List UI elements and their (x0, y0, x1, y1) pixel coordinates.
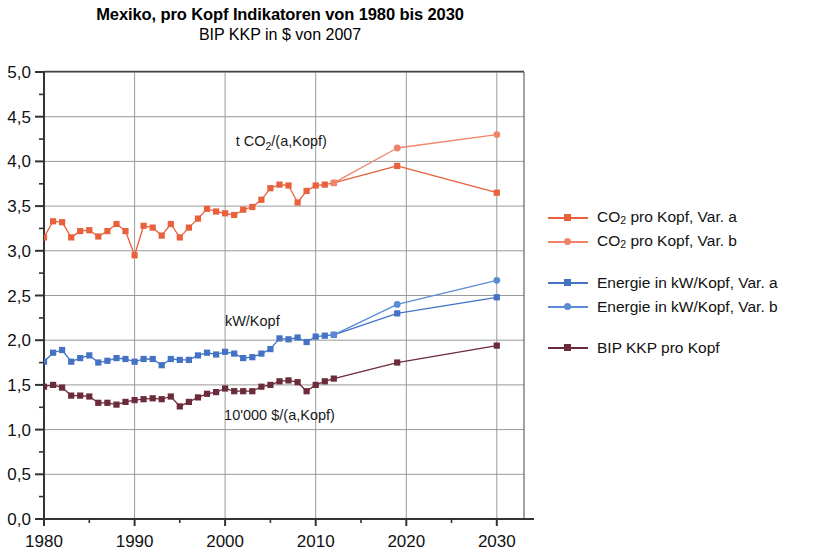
y-axis-tick-label: 4,5 (7, 108, 31, 127)
x-axis-tick-label: 2020 (387, 532, 425, 551)
data-point (122, 356, 128, 362)
data-point (494, 294, 500, 300)
x-axis-tick-label: 2010 (297, 532, 335, 551)
legend-swatch-icon (548, 276, 588, 290)
data-point (122, 228, 128, 234)
legend-marker-square (564, 279, 571, 286)
data-point (204, 391, 210, 397)
legend-item-label: Energie in kW/Kopf, Var. b (597, 298, 778, 316)
y-axis-tick-label: 4,0 (7, 152, 31, 171)
data-point (168, 221, 174, 227)
data-point (267, 185, 273, 191)
data-point (313, 182, 319, 188)
data-point (95, 400, 101, 406)
data-point (104, 358, 110, 364)
data-point (86, 352, 92, 358)
data-point (330, 180, 337, 187)
data-point (195, 394, 201, 400)
data-point (213, 389, 219, 395)
data-point (285, 336, 291, 342)
data-point (77, 228, 83, 234)
data-point (231, 351, 237, 357)
data-point (159, 396, 165, 402)
legend-marker-round (564, 303, 571, 310)
data-point (177, 403, 183, 409)
chart-legend: CO2 pro Kopf, Var. aCO2 pro Kopf, Var. b… (548, 206, 826, 360)
legend-marker-round (564, 238, 571, 245)
data-point (104, 400, 110, 406)
chart-figure: Mexiko, pro Kopf Indikatoren von 1980 bi… (0, 0, 826, 558)
data-point (249, 204, 255, 210)
legend-item[interactable]: CO2 pro Kopf, Var. b (548, 230, 826, 254)
data-point (113, 221, 119, 227)
data-point (231, 212, 237, 218)
y-axis-tick-label: 2,0 (7, 331, 31, 350)
data-point (494, 343, 500, 349)
data-point (240, 388, 246, 394)
data-point (177, 357, 183, 363)
data-point (122, 399, 128, 405)
data-point (68, 359, 74, 365)
data-point (68, 234, 74, 240)
data-point (186, 225, 192, 231)
legend-swatch-icon (548, 341, 588, 355)
data-point (177, 234, 183, 240)
data-point (304, 339, 310, 345)
x-axis-tick-label: 1980 (25, 532, 63, 551)
data-point (267, 382, 273, 388)
legend-item[interactable]: Energie in kW/Kopf, Var. b (548, 295, 826, 319)
data-point (41, 234, 47, 240)
data-point (330, 331, 337, 338)
data-point (68, 393, 74, 399)
legend-item[interactable]: CO2 pro Kopf, Var. a (548, 206, 826, 230)
x-axis-tick-label: 2030 (478, 532, 516, 551)
legend-spacer (548, 319, 826, 336)
data-point (304, 388, 310, 394)
data-point (267, 346, 273, 352)
data-point (258, 351, 264, 357)
data-point (493, 131, 500, 138)
data-point (204, 206, 210, 212)
data-point (222, 210, 228, 216)
data-point (493, 277, 500, 284)
data-point (231, 388, 237, 394)
legend-item[interactable]: Energie in kW/Kopf, Var. a (548, 271, 826, 295)
data-point (159, 233, 165, 239)
data-point (132, 252, 138, 258)
data-point (322, 378, 328, 384)
data-point (132, 359, 138, 365)
y-axis-tick-label: 2,5 (7, 287, 31, 306)
data-point (50, 218, 56, 224)
data-point (394, 163, 400, 169)
data-point (86, 227, 92, 233)
y-axis-tick-label: 1,0 (7, 421, 31, 440)
legend-spacer (548, 254, 826, 271)
data-point (95, 233, 101, 239)
data-point (322, 182, 328, 188)
data-point (195, 352, 201, 358)
y-axis-tick-label: 3,5 (7, 197, 31, 216)
data-point (240, 207, 246, 213)
data-point (50, 350, 56, 356)
x-axis-tick-label: 2000 (206, 532, 244, 551)
data-point (77, 355, 83, 361)
data-point (150, 225, 156, 231)
legend-item[interactable]: BIP KKP pro Kopf (548, 336, 826, 360)
data-point (394, 310, 400, 316)
data-point (168, 393, 174, 399)
energy-annotation: kW/Kopf (225, 313, 281, 329)
data-point (213, 351, 219, 357)
data-point (313, 334, 319, 340)
data-point (113, 355, 119, 361)
data-point (285, 377, 291, 383)
x-axis-tick-label: 1990 (116, 532, 154, 551)
data-point (86, 393, 92, 399)
legend-marker-square (564, 214, 571, 221)
data-point (285, 182, 291, 188)
chart-svg: 0,00,51,01,52,02,53,03,54,04,55,01980199… (0, 0, 560, 558)
data-point (141, 223, 147, 229)
data-point (295, 334, 301, 340)
data-point (394, 301, 401, 308)
legend-item-label: CO2 pro Kopf, Var. b (597, 232, 737, 253)
data-point (150, 356, 156, 362)
